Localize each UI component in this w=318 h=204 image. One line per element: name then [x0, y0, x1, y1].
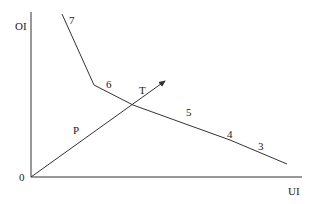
- y-axis-label: OI: [15, 21, 27, 32]
- point-label-5: 5: [186, 107, 192, 118]
- origin-label: 0: [19, 172, 25, 183]
- indifference-curve: [62, 14, 287, 164]
- point-label-6: 6: [106, 79, 112, 90]
- x-axis-label: UI: [288, 186, 300, 197]
- point-label-7: 7: [69, 15, 75, 26]
- arrow-label-t: T: [139, 85, 146, 96]
- diagram-canvas: [0, 0, 318, 204]
- point-label-3: 3: [258, 141, 264, 152]
- ray-label-p: P: [73, 125, 79, 136]
- diagram: OI UI 0 7 6 5 4 3 P T: [0, 0, 318, 204]
- point-label-4: 4: [227, 129, 233, 140]
